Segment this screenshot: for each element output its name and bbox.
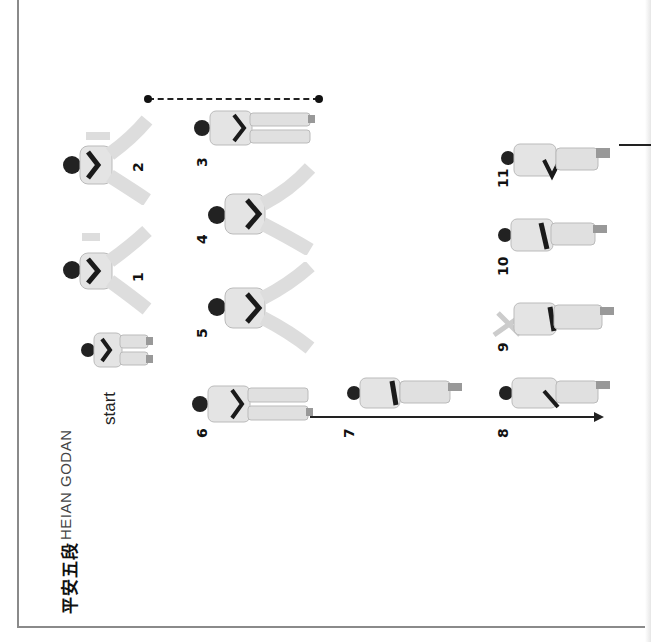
figure-step-1	[62, 225, 157, 315]
title-latin: HEIAN GODAN	[57, 429, 74, 540]
figure-step-9	[492, 295, 617, 343]
figure-step-6	[190, 378, 320, 430]
figure-step-4	[205, 160, 320, 255]
embusen-dashed-line	[148, 98, 319, 100]
edge-line-mark	[619, 144, 651, 146]
figure-step-7	[344, 373, 469, 413]
page-edge-shade	[645, 0, 651, 642]
step-number-7: 7	[341, 428, 357, 438]
dashed-line-end-dot	[315, 95, 323, 103]
dashed-line-start-dot	[144, 95, 152, 103]
page-border-left	[17, 0, 19, 628]
step-number-9: 9	[495, 342, 511, 352]
figure-step-3	[192, 103, 322, 153]
figure-step-5	[205, 262, 320, 357]
figure-step-8	[496, 373, 616, 413]
step-number-10: 10	[495, 257, 511, 276]
figure-step-2	[62, 110, 157, 205]
title-kanji: 平安五段	[56, 542, 81, 614]
start-label: start	[100, 392, 120, 425]
figure-start	[80, 325, 155, 375]
figure-step-10	[495, 215, 615, 257]
page-border-bottom	[17, 626, 651, 628]
direction-arrow-head-icon	[594, 412, 604, 422]
direction-arrow-line	[310, 416, 596, 418]
step-number-8: 8	[495, 428, 511, 438]
figure-step-11	[500, 140, 615, 184]
